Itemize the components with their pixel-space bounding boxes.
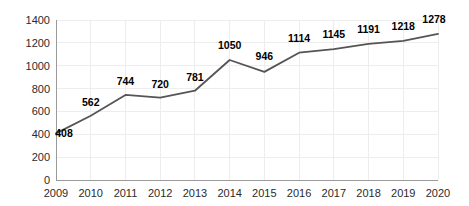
data-point-label: 1145: [322, 28, 345, 40]
x-axis-tick-label: 2010: [78, 187, 102, 199]
y-axis-tick-label: 1000: [26, 60, 50, 72]
y-axis-tick-label: 800: [32, 83, 50, 95]
y-axis-tick-label: 400: [32, 128, 50, 140]
x-axis-tick-label: 2020: [426, 187, 450, 199]
x-axis-tick-label: 2015: [252, 187, 276, 199]
x-axis-tick-label: 2013: [183, 187, 207, 199]
x-axis-tick-label: 2019: [391, 187, 415, 199]
data-point-label: 1218: [392, 20, 416, 32]
y-axis-tick-label: 1400: [26, 14, 50, 26]
x-axis-tick-label: 2014: [217, 187, 241, 199]
line-chart: 0200400600800100012001400 20092010201120…: [0, 0, 469, 206]
data-point-label: 1191: [357, 23, 380, 35]
data-point-label: 720: [151, 78, 169, 90]
data-point-label: 744: [117, 75, 135, 87]
x-axis-tick-label: 2017: [322, 187, 346, 199]
data-point-label: 1050: [218, 39, 242, 51]
data-point-label: 1114: [288, 32, 310, 44]
y-axis-tick-label: 0: [44, 174, 50, 186]
y-axis-tick-label: 600: [32, 105, 50, 117]
y-axis-tick-label: 200: [32, 151, 50, 163]
data-point-label: 408: [55, 127, 73, 139]
x-axis-tick-label: 2012: [148, 187, 172, 199]
data-point-label: 781: [186, 71, 204, 83]
chart-canvas: 0200400600800100012001400 20092010201120…: [0, 0, 469, 206]
x-axis-tick-label: 2009: [44, 187, 68, 199]
y-axis-tick-label: 1200: [26, 37, 50, 49]
x-axis-tick-label: 2016: [287, 187, 311, 199]
x-axis-tick-label: 2018: [356, 187, 380, 199]
data-point-label: 562: [82, 96, 100, 108]
data-point-label: 946: [256, 50, 274, 62]
x-axis-tick-label: 2011: [114, 187, 138, 199]
data-point-label: 1278: [422, 13, 446, 25]
